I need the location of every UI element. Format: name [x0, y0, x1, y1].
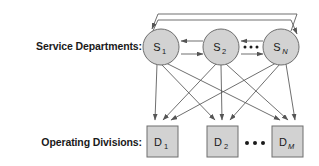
- node-s1-label: S: [153, 41, 160, 53]
- node-dm[interactable]: D M: [272, 126, 303, 157]
- node-d2-label: D: [214, 136, 222, 148]
- node-d1-label: D: [154, 136, 162, 148]
- node-s2-subscript: 2: [222, 47, 226, 56]
- edge-sn-to-d1: [171, 63, 276, 120]
- node-d2-shape[interactable]: [207, 126, 238, 157]
- node-sn-subscript: N: [282, 47, 288, 56]
- node-d1-shape[interactable]: [147, 126, 178, 157]
- node-dm-label: D: [279, 136, 287, 148]
- ellipsis-operating-divisions: [245, 141, 265, 145]
- edge-s2-to-dm: [226, 64, 288, 120]
- row-label-operating-divisions: Operating Divisions:: [41, 136, 142, 148]
- edge-sn-to-d2: [230, 64, 280, 120]
- node-d2[interactable]: D 2: [207, 126, 238, 157]
- node-sn-label: S: [273, 41, 280, 53]
- diagram-canvas: Service Departments: Operating Divisions…: [0, 0, 319, 166]
- node-sn-shape[interactable]: [263, 29, 299, 65]
- cost-allocation-diagram: Service Departments: Operating Divisions…: [0, 0, 319, 166]
- node-s1[interactable]: S 1: [143, 29, 179, 65]
- node-dm-subscript: M: [288, 142, 295, 151]
- ellipsis-service-departments: [244, 46, 259, 49]
- node-s2[interactable]: S 2: [203, 29, 239, 65]
- node-s2-label: S: [213, 41, 220, 53]
- node-d1-subscript: 1: [164, 142, 168, 151]
- edge-sn-to-dm: [286, 64, 295, 120]
- edge-arc-sn-to-s1: [152, 14, 297, 31]
- node-s1-subscript: 1: [162, 47, 166, 56]
- node-d1[interactable]: D 1: [147, 126, 178, 157]
- row-label-service-departments: Service Departments:: [36, 40, 142, 52]
- node-sn[interactable]: S N: [263, 29, 299, 65]
- edge-s1-to-d1: [155, 64, 157, 120]
- edge-s2-to-d1: [163, 64, 216, 120]
- node-d2-subscript: 2: [224, 142, 228, 151]
